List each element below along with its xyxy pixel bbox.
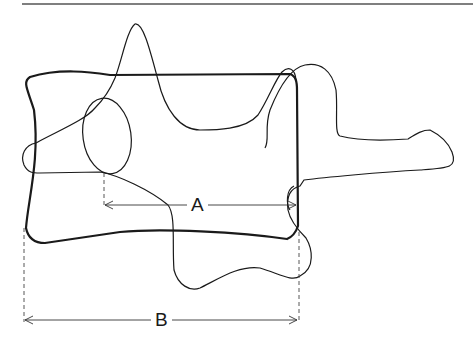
lamina-outline: [36, 24, 296, 143]
diagram-drawing: [0, 0, 473, 341]
label-a: A: [187, 195, 208, 215]
pedicle-oval: [78, 95, 136, 177]
vertebra-diagram: A B: [0, 0, 473, 341]
vertebral-body-outline: [26, 71, 298, 243]
label-b: B: [151, 310, 172, 330]
vertebra-process-outline: [23, 64, 454, 289]
